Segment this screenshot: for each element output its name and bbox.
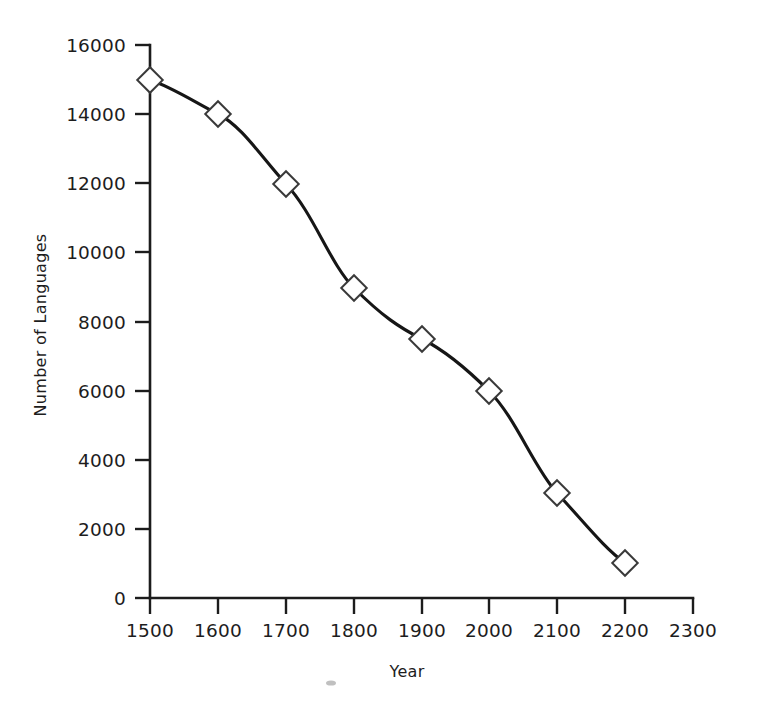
data-point-marker bbox=[137, 67, 162, 92]
x-axis-title: Year bbox=[388, 662, 424, 681]
x-axis-ticks bbox=[150, 598, 693, 614]
x-axis-tick-labels: 1500 1600 1700 1800 1900 2000 2100 2200 … bbox=[126, 620, 717, 641]
y-tick-label: 0 bbox=[114, 588, 126, 609]
y-tick-label: 6000 bbox=[78, 381, 126, 402]
x-tick-label: 2200 bbox=[601, 620, 649, 641]
x-tick-label: 1700 bbox=[262, 620, 310, 641]
x-tick-label: 2300 bbox=[669, 620, 717, 641]
line-chart: 16000 14000 12000 10000 8000 6000 4000 2… bbox=[0, 0, 763, 711]
y-axis-tick-labels: 16000 14000 12000 10000 8000 6000 4000 2… bbox=[66, 35, 126, 609]
y-tick-label: 8000 bbox=[78, 312, 126, 333]
y-tick-label: 12000 bbox=[66, 173, 126, 194]
y-tick-label: 16000 bbox=[66, 35, 126, 56]
chart-container: 16000 14000 12000 10000 8000 6000 4000 2… bbox=[0, 0, 763, 711]
y-tick-label: 10000 bbox=[66, 242, 126, 263]
data-point-marker bbox=[409, 326, 434, 351]
x-tick-label: 1500 bbox=[126, 620, 174, 641]
y-tick-label: 2000 bbox=[78, 519, 126, 540]
y-tick-label: 14000 bbox=[66, 104, 126, 125]
scan-artifact bbox=[326, 680, 336, 685]
x-tick-label: 2000 bbox=[465, 620, 513, 641]
x-tick-label: 1600 bbox=[194, 620, 242, 641]
y-axis-ticks bbox=[135, 45, 150, 598]
y-tick-label: 4000 bbox=[78, 450, 126, 471]
x-tick-label: 1900 bbox=[398, 620, 446, 641]
y-axis-title: Number of Languages bbox=[31, 234, 50, 417]
data-point-marker bbox=[205, 101, 230, 126]
x-tick-label: 2100 bbox=[533, 620, 581, 641]
data-point-markers bbox=[137, 67, 637, 575]
x-tick-label: 1800 bbox=[330, 620, 378, 641]
